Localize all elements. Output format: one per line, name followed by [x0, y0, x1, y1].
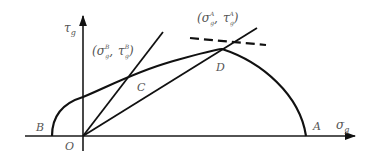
point-C-label: C — [137, 81, 146, 94]
point-B-label: B — [35, 121, 44, 134]
point-A-label: A — [312, 120, 321, 133]
point-D-label: D — [215, 61, 225, 74]
tau-axis-label: τg — [64, 21, 76, 37]
point-B-coordinates: (σBg,τBg) — [92, 43, 134, 60]
sigma-axis-label: σg — [336, 118, 349, 134]
origin-label: O — [65, 140, 74, 153]
tangent-at-D — [190, 38, 266, 45]
failure-envelope-arc — [52, 49, 306, 136]
point-A-coordinates: (σAg,τAg) — [197, 10, 239, 27]
mohr-diagram: τg σg O B A C D (σBg,τBg) (σAg,τAg) — [0, 0, 373, 154]
